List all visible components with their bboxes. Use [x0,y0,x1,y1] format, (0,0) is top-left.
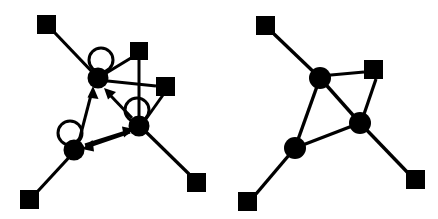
right-panel-svg [219,0,438,219]
node-square-s2[interactable] [364,60,383,79]
figure-canvas [0,0,438,219]
edge-c1-c3 [295,78,320,148]
undirected-edges [256,34,410,194]
node-square-s5[interactable] [20,190,39,209]
node-circle-c1[interactable] [88,68,109,89]
edge-s4-c2 [142,128,189,174]
node-square-s2[interactable] [130,42,148,60]
left-panel-svg [0,0,219,219]
node-square-s3[interactable] [156,77,175,96]
node-circle-c3[interactable] [284,137,306,159]
node-square-s4[interactable] [187,173,206,192]
edge-c3-to-c2 [85,132,126,145]
directed-edges [79,86,134,152]
node-square-s4[interactable] [238,192,257,211]
node-square-s3[interactable] [406,170,425,189]
node-circle-c3[interactable] [64,140,85,161]
right-panel-undirected-graph [219,0,438,219]
left-panel-directed-graph [0,0,219,219]
node-circle-c1[interactable] [309,67,331,89]
circle-nodes [284,67,371,159]
circle-nodes [64,68,150,161]
edge-c2-to-c1 [110,95,132,118]
node-square-s1[interactable] [37,15,56,34]
node-circle-c2[interactable] [349,112,371,134]
node-square-s1[interactable] [256,16,275,35]
node-circle-c2[interactable] [129,116,150,137]
